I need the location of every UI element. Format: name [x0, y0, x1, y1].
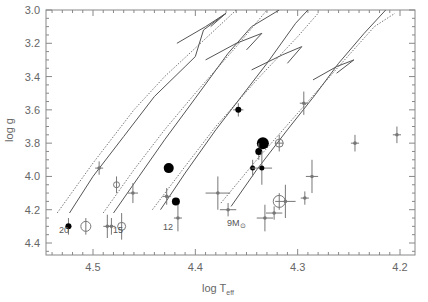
- cross-marker: [216, 191, 220, 195]
- cross-marker: [302, 101, 306, 105]
- x-tick-label: 4.2: [392, 261, 407, 273]
- solid-track: [177, 13, 226, 43]
- cross-marker: [310, 175, 314, 179]
- star-point: [206, 176, 231, 209]
- cross-marker: [226, 208, 230, 212]
- star-point: [300, 92, 308, 115]
- cross-marker: [353, 141, 357, 145]
- cross-marker: [395, 133, 399, 137]
- y-tick-label: 4.4: [25, 237, 40, 249]
- filled-circle-marker: [259, 166, 264, 171]
- cross-marker: [272, 211, 276, 215]
- y-tick-label: 4.2: [25, 204, 40, 216]
- mass-label-15: 15: [113, 225, 123, 235]
- filled-circle-marker: [255, 148, 262, 155]
- filled-circle-marker: [172, 197, 180, 205]
- cross-marker: [97, 166, 101, 170]
- y-axis-label: log g: [3, 118, 15, 142]
- star-point: [174, 205, 182, 232]
- y-tick-label: 3.2: [25, 37, 40, 49]
- star-point: [306, 160, 318, 193]
- x-tick-label: 4.3: [290, 261, 305, 273]
- filled-circle-marker: [164, 163, 174, 173]
- cross-marker: [176, 216, 180, 220]
- y-tick-label: 3.4: [25, 71, 40, 83]
- star-point: [257, 205, 273, 232]
- star-point: [393, 127, 401, 144]
- axis-ticks: 4.54.44.34.23.03.23.43.63.84.04.24.4: [25, 4, 415, 273]
- cross-marker: [284, 200, 288, 204]
- dotted-track: [221, 13, 395, 203]
- hr-diagram: 4.54.44.34.23.03.23.43.63.84.04.24.4 log…: [0, 0, 428, 302]
- star-point: [114, 176, 120, 193]
- mass-label-9: 9M⊙: [227, 218, 246, 229]
- dotted-track: [57, 10, 236, 213]
- star-point: [163, 188, 171, 205]
- x-tick-label: 4.4: [188, 261, 203, 273]
- filled-circle-marker: [235, 107, 241, 113]
- star-point: [252, 151, 272, 184]
- y-tick-label: 3.0: [25, 4, 40, 16]
- evolutionary-tracks: [57, 10, 395, 213]
- cross-marker: [165, 195, 169, 199]
- star-point: [351, 135, 359, 152]
- star-point: [301, 191, 309, 204]
- cross-marker: [131, 191, 135, 195]
- star-point: [81, 218, 91, 235]
- y-tick-label: 4.0: [25, 170, 40, 182]
- cross-marker: [303, 196, 307, 200]
- star-point: [128, 183, 138, 203]
- mass-label-20: 20: [59, 225, 69, 235]
- solid-track: [70, 13, 227, 213]
- star-point: [220, 203, 236, 216]
- star-point: [164, 163, 174, 173]
- star-point: [172, 197, 180, 205]
- y-tick-label: 3.6: [25, 104, 40, 116]
- cross-marker: [263, 216, 267, 220]
- x-axis-label: log Teff: [202, 282, 234, 296]
- solid-track: [114, 10, 280, 213]
- mass-label-12: 12: [163, 222, 173, 232]
- y-tick-label: 3.8: [25, 137, 40, 149]
- x-tick-label: 4.5: [85, 261, 100, 273]
